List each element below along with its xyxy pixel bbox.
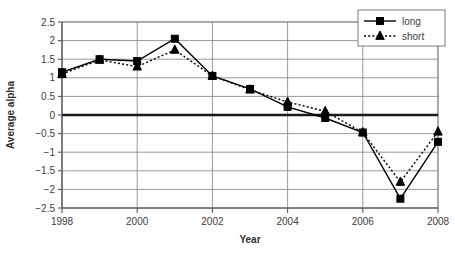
x-axis-tick-label: 2008 bbox=[427, 216, 450, 227]
legend-label-short: short bbox=[402, 31, 424, 42]
x-axis-tick-label: 2006 bbox=[352, 216, 375, 227]
y-axis-tick-label: 0.5 bbox=[41, 91, 55, 102]
x-axis-title: Year bbox=[239, 234, 260, 245]
chart-container: 2.521.510.50−0.5−1−1.5−2−2.5199820002002… bbox=[0, 0, 455, 258]
data-point-long bbox=[397, 195, 404, 202]
y-axis-tick-label: −1.5 bbox=[35, 165, 55, 176]
x-axis: 199820002002200420062008 bbox=[51, 208, 450, 227]
average-alpha-line-chart: 2.521.510.50−0.5−1−1.5−2−2.5199820002002… bbox=[0, 0, 455, 258]
y-axis-tick-label: 1 bbox=[49, 72, 55, 83]
y-axis: 2.521.510.50−0.5−1−1.5−2−2.5 bbox=[35, 17, 62, 214]
y-axis-tick-label: −1 bbox=[44, 147, 56, 158]
y-axis-tick-label: −2.5 bbox=[35, 203, 55, 214]
y-axis-tick-label: 0 bbox=[49, 110, 55, 121]
data-point-long bbox=[435, 138, 442, 145]
legend-marker-long bbox=[377, 18, 384, 25]
x-axis-tick-label: 2000 bbox=[126, 216, 149, 227]
y-axis-title: Average alpha bbox=[5, 81, 16, 149]
data-point-long bbox=[322, 114, 329, 121]
x-axis-tick-label: 2002 bbox=[201, 216, 224, 227]
x-axis-tick-label: 1998 bbox=[51, 216, 74, 227]
x-axis-tick-label: 2004 bbox=[276, 216, 299, 227]
y-axis-tick-label: −0.5 bbox=[35, 128, 55, 139]
legend: longshort bbox=[358, 10, 445, 46]
y-axis-tick-label: 2.5 bbox=[41, 17, 55, 28]
y-axis-tick-label: −2 bbox=[44, 184, 56, 195]
data-point-long bbox=[171, 35, 178, 42]
legend-label-long: long bbox=[402, 16, 421, 27]
y-axis-tick-label: 2 bbox=[49, 35, 55, 46]
y-axis-tick-label: 1.5 bbox=[41, 54, 55, 65]
